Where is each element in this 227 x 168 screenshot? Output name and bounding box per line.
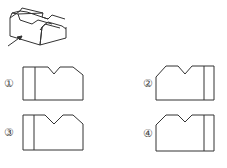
option-1-label[interactable]: ① [4,78,14,90]
option-3-label[interactable]: ③ [4,127,14,139]
option-3-drawing [23,115,83,150]
option-4-drawing [156,115,214,151]
option-4-label[interactable]: ④ [143,128,153,140]
option-2-label[interactable]: ② [143,78,153,90]
isometric-view [10,8,66,45]
figure-canvas [0,0,227,168]
option-1-drawing [23,67,83,100]
option-2-drawing [156,66,214,100]
